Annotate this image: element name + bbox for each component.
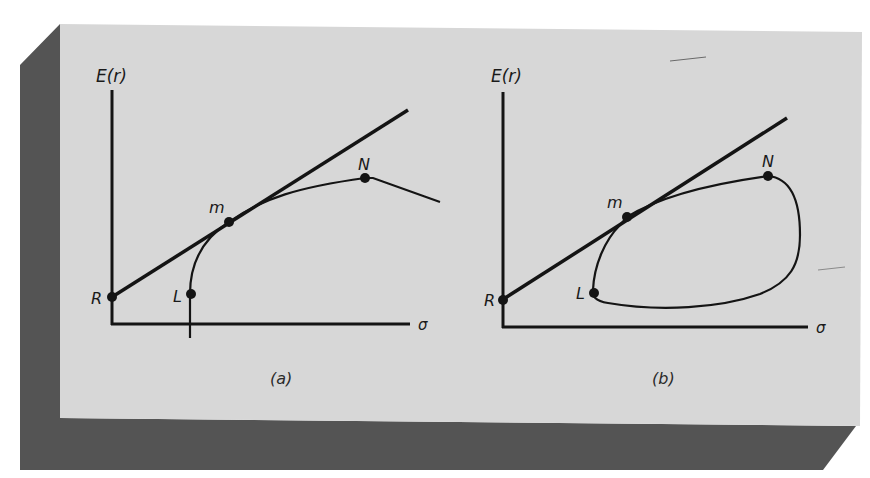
point-m xyxy=(224,217,234,227)
point-r xyxy=(107,292,117,302)
x-axis-label: σ xyxy=(816,319,826,337)
point-l xyxy=(589,288,599,298)
panel-caption-b: (b) xyxy=(652,369,675,388)
point-label-r: R xyxy=(91,289,102,308)
point-label-r: R xyxy=(484,291,495,310)
point-label-n: N xyxy=(358,155,370,174)
panel-caption-a: (a) xyxy=(270,369,292,388)
y-axis-label: E(r) xyxy=(491,66,522,86)
point-n xyxy=(360,173,370,183)
point-label-n: N xyxy=(762,152,774,171)
point-l xyxy=(186,289,196,299)
box-face xyxy=(60,24,862,426)
figure-canvas: E(r) σ R L m N (a) E(r) σ R L m N xyxy=(0,0,870,478)
point-label-m: m xyxy=(209,198,225,217)
point-label-l: L xyxy=(173,287,182,306)
point-label-l: L xyxy=(576,284,585,303)
point-r xyxy=(498,295,508,305)
point-label-m: m xyxy=(607,193,623,212)
point-n xyxy=(763,171,773,181)
y-axis-label: E(r) xyxy=(96,66,127,86)
x-axis-label: σ xyxy=(418,316,428,334)
point-m xyxy=(622,212,632,222)
